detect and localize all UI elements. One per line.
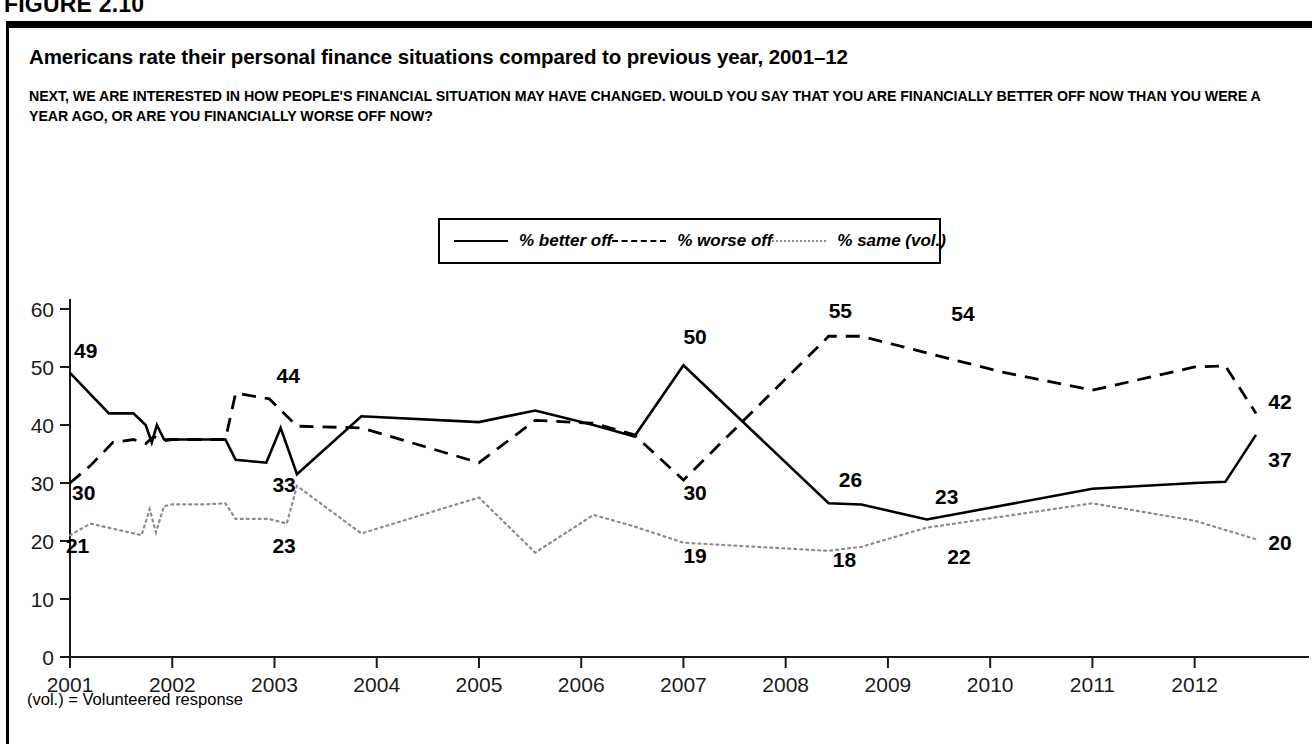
y-tick-label: 10 bbox=[31, 588, 54, 611]
legend-line-dashed-icon bbox=[612, 240, 666, 243]
plot-area: 0102030405060200120022003200420052006200… bbox=[9, 273, 1315, 693]
data-label-44: 44 bbox=[277, 364, 301, 387]
x-tick-label: 2003 bbox=[251, 673, 298, 693]
data-label-42: 42 bbox=[1268, 390, 1291, 413]
data-label-37: 37 bbox=[1268, 448, 1291, 471]
y-tick-label: 0 bbox=[42, 646, 54, 669]
footnote-volunteered-response: (vol.) = Volunteered response bbox=[27, 690, 243, 709]
x-tick-label: 2009 bbox=[865, 673, 912, 693]
x-tick-label: 2011 bbox=[1070, 673, 1115, 693]
legend-label-same: % same (vol.) bbox=[837, 231, 946, 251]
legend-item-same: % same (vol.) bbox=[772, 231, 946, 251]
data-label-26: 26 bbox=[839, 468, 862, 491]
legend-line-solid-icon bbox=[454, 240, 508, 243]
x-tick-label: 2005 bbox=[456, 673, 503, 693]
data-label-54: 54 bbox=[951, 302, 975, 325]
y-tick-label: 20 bbox=[31, 530, 54, 553]
data-label-49: 49 bbox=[74, 339, 97, 362]
y-tick-label: 40 bbox=[31, 414, 54, 437]
x-tick-label: 2010 bbox=[967, 673, 1014, 693]
x-tick-label: 2006 bbox=[558, 673, 605, 693]
x-tick-label: 2004 bbox=[353, 673, 400, 693]
data-label-21: 21 bbox=[66, 534, 90, 557]
y-tick-label: 50 bbox=[31, 356, 54, 379]
data-label-33: 33 bbox=[272, 473, 295, 496]
data-label-23: 23 bbox=[935, 485, 958, 508]
line-chart-svg: 0102030405060200120022003200420052006200… bbox=[9, 273, 1315, 693]
legend-label-worse-off: % worse off bbox=[677, 231, 772, 251]
y-tick-label: 60 bbox=[31, 298, 54, 321]
legend-line-dotted-icon bbox=[772, 240, 826, 243]
chart-title: Americans rate their personal finance si… bbox=[29, 45, 848, 69]
legend-item-better-off: % better off bbox=[454, 231, 612, 251]
data-label-30: 30 bbox=[683, 481, 706, 504]
figure-page: FIGURE 2.10 Americans rate their persona… bbox=[0, 0, 1316, 744]
chart-legend: % better off % worse off % same (vol.) bbox=[438, 218, 941, 264]
data-label-23: 23 bbox=[272, 534, 295, 557]
data-label-55: 55 bbox=[829, 299, 853, 322]
x-tick-label: 2008 bbox=[762, 673, 809, 693]
legend-label-better-off: % better off bbox=[519, 231, 612, 251]
data-label-50: 50 bbox=[683, 325, 706, 348]
survey-question-text: NEXT, WE ARE INTERESTED IN HOW PEOPLE'S … bbox=[29, 86, 1299, 126]
data-label-19: 19 bbox=[683, 544, 706, 567]
data-label-30: 30 bbox=[72, 481, 95, 504]
x-tick-label: 2012 bbox=[1171, 673, 1218, 693]
x-tick-label: 2007 bbox=[660, 673, 707, 693]
data-label-18: 18 bbox=[833, 548, 857, 571]
figure-panel: Americans rate their personal finance si… bbox=[6, 21, 1312, 744]
legend-item-worse-off: % worse off bbox=[612, 231, 772, 251]
figure-number-label: FIGURE 2.10 bbox=[4, 0, 144, 18]
series-line-same-vol bbox=[70, 486, 1256, 553]
y-tick-label: 30 bbox=[31, 472, 54, 495]
data-label-20: 20 bbox=[1268, 531, 1291, 554]
data-label-22: 22 bbox=[947, 545, 970, 568]
